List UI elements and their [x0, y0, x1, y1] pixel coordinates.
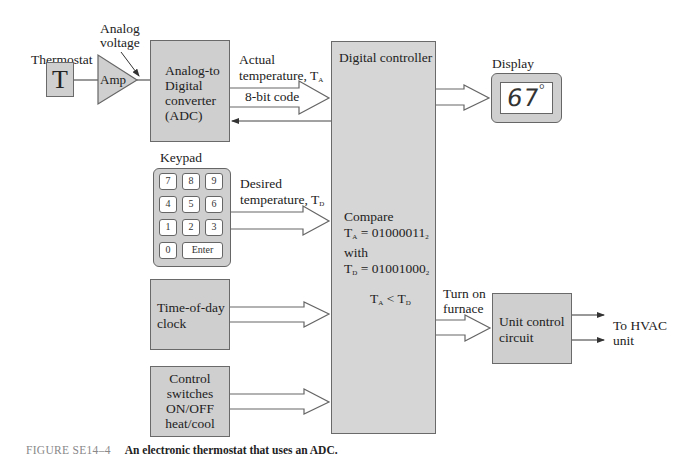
- figure-caption: FIGURE SE14–4An electronic thermostat th…: [26, 444, 338, 456]
- key-2[interactable]: 2: [182, 219, 200, 236]
- figure-number: FIGURE SE14–4: [26, 444, 111, 456]
- eight-bit-code-label: 8-bit code: [245, 89, 299, 104]
- switches-bus-arrow: [229, 389, 329, 414]
- display-value: 67: [505, 84, 541, 112]
- key-8[interactable]: 8: [182, 173, 200, 190]
- amp-label: Amp: [100, 72, 126, 87]
- key-5[interactable]: 5: [182, 196, 200, 213]
- key-6[interactable]: 6: [205, 196, 223, 213]
- key-9[interactable]: 9: [205, 173, 223, 190]
- key-enter[interactable]: Enter: [182, 242, 223, 259]
- analog-voltage-label: Analogvoltage: [100, 22, 140, 50]
- compare-result: TA < TD: [370, 291, 411, 311]
- keypad-label: Keypad: [160, 150, 202, 165]
- turn-on-furnace-label: Turn onfurnace: [443, 286, 486, 316]
- display-bus-arrow: [435, 85, 489, 110]
- display-screen: 67 °: [500, 82, 553, 114]
- compare-text: Compare TA = 010000112 with TD = 0100100…: [344, 209, 429, 281]
- key-1[interactable]: 1: [159, 219, 177, 236]
- unit-control-circuit-block: Unit controlcircuit: [492, 293, 572, 364]
- to-hvac-unit-label: To HVACunit: [613, 318, 667, 348]
- thermostat-symbol: T: [52, 65, 68, 94]
- digital-controller-block: Digital controller Compare TA = 01000011…: [331, 41, 436, 434]
- keypad: 7 8 9 4 5 6 1 2 3 0 Enter: [153, 168, 231, 267]
- display-device: 67 °: [491, 73, 562, 123]
- desired-temperature-label: Desired temperature, TD: [240, 176, 324, 212]
- adc-block: Analog-to Digital converter (ADC): [150, 40, 230, 142]
- clock-bus-arrow: [229, 302, 329, 327]
- thermostat-sensor: T: [46, 62, 74, 97]
- display-degree: °: [539, 82, 545, 98]
- figure-caption-text: An electronic thermostat that uses an AD…: [125, 444, 338, 456]
- key-4[interactable]: 4: [159, 196, 177, 213]
- display-label: Display: [492, 56, 534, 71]
- key-3[interactable]: 3: [205, 219, 223, 236]
- actual-temperature-label: Actual temperature, TA: [239, 52, 323, 88]
- controller-title: Digital controller: [339, 50, 432, 65]
- key-0[interactable]: 0: [159, 242, 177, 259]
- key-7[interactable]: 7: [159, 173, 177, 190]
- time-of-day-clock-block: Time-of-dayclock: [150, 279, 230, 350]
- furnace-bus-arrow: [435, 315, 490, 341]
- control-switches-block: Control switches ON/OFF heat/cool: [150, 366, 230, 437]
